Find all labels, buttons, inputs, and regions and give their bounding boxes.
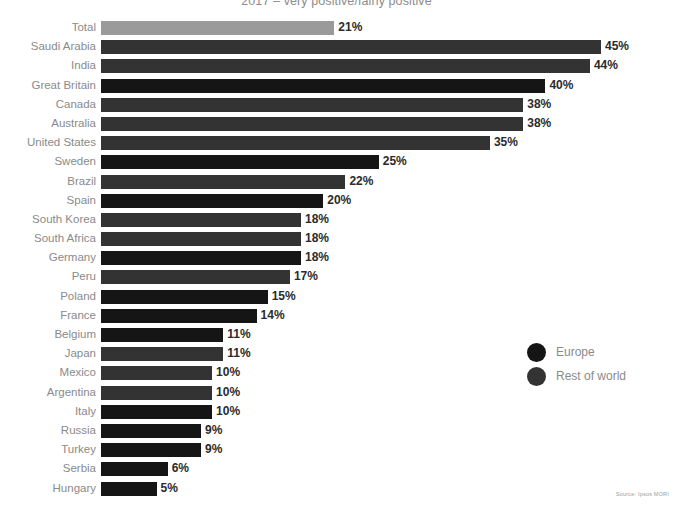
bar-value-label: 35% (494, 135, 518, 149)
bar[interactable] (101, 232, 301, 246)
bar-row: South Africa18% (0, 230, 673, 249)
bar[interactable] (101, 462, 168, 476)
bar-category-label: United States (0, 136, 96, 149)
bar-category-label: Serbia (0, 462, 96, 475)
bar-row: Turkey9% (0, 441, 673, 460)
bar[interactable] (101, 405, 212, 419)
bar-category-label: Germany (0, 251, 96, 264)
bar-row: Russia9% (0, 422, 673, 441)
bar-category-label: Turkey (0, 443, 96, 456)
bar[interactable] (101, 79, 545, 93)
bar[interactable] (101, 175, 345, 189)
bar-value-label: 38% (527, 97, 551, 111)
bar-category-label: Sweden (0, 155, 96, 168)
chart-legend: Europe Rest of world (527, 340, 626, 388)
legend-label-rest-of-world: Rest of world (556, 369, 626, 383)
chart-title: 2017 – very positive/fairly positive (0, 0, 673, 8)
bar-track (101, 40, 601, 54)
bar[interactable] (101, 251, 301, 265)
bar-category-label: Spain (0, 194, 96, 207)
bar-value-label: 5% (161, 481, 178, 495)
bar-track (101, 309, 257, 323)
bar-track (101, 482, 157, 496)
bar-track (101, 21, 334, 35)
bar-value-label: 38% (527, 116, 551, 130)
bar[interactable] (101, 117, 523, 131)
bar[interactable] (101, 98, 523, 112)
bar-row: Germany18% (0, 249, 673, 268)
bar[interactable] (101, 21, 334, 35)
bar-track (101, 251, 301, 265)
bar-value-label: 25% (383, 154, 407, 168)
bar-category-label: Peru (0, 270, 96, 283)
bar-value-label: 9% (205, 423, 222, 437)
bar-value-label: 40% (549, 78, 573, 92)
bar-row: South Korea18% (0, 211, 673, 230)
bar-category-label: Brazil (0, 175, 96, 188)
bar-category-label: Japan (0, 347, 96, 360)
bar-value-label: 18% (305, 250, 329, 264)
bar-category-label: India (0, 59, 96, 72)
bar-track (101, 328, 223, 342)
bar[interactable] (101, 213, 301, 227)
bar-track (101, 175, 345, 189)
bar[interactable] (101, 194, 323, 208)
bar-track (101, 290, 268, 304)
legend-item-europe[interactable]: Europe (527, 340, 626, 364)
bar-track (101, 232, 301, 246)
bar-track (101, 386, 212, 400)
bar[interactable] (101, 482, 157, 496)
bar[interactable] (101, 155, 379, 169)
bar-track (101, 347, 223, 361)
bar-value-label: 45% (605, 39, 629, 53)
bar[interactable] (101, 40, 601, 54)
bar-category-label: South Africa (0, 232, 96, 245)
legend-swatch-circle-icon (527, 343, 546, 362)
bar-category-label: Argentina (0, 386, 96, 399)
bar-track (101, 424, 201, 438)
bar-value-label: 18% (305, 212, 329, 226)
bar-row: Sweden25% (0, 153, 673, 172)
bar-value-label: 11% (227, 327, 250, 341)
bar-value-label: 14% (261, 308, 285, 322)
bar-row: Spain20% (0, 192, 673, 211)
bar-value-label: 22% (349, 174, 373, 188)
bar-track (101, 155, 379, 169)
bar-value-label: 10% (216, 404, 240, 418)
bar[interactable] (101, 366, 212, 380)
bar[interactable] (101, 59, 590, 73)
bar-row: Australia38% (0, 115, 673, 134)
bar-value-label: 11% (227, 346, 250, 360)
bar-chart: 2017 – very positive/fairly positive Tot… (0, 0, 673, 517)
bar-row: Saudi Arabia45% (0, 38, 673, 57)
source-note: Source: Ipsos MORI (616, 491, 669, 497)
bar-row: Serbia6% (0, 460, 673, 479)
bar[interactable] (101, 443, 201, 457)
bar[interactable] (101, 328, 223, 342)
bar[interactable] (101, 309, 257, 323)
bar[interactable] (101, 136, 490, 150)
bar-row: Poland15% (0, 288, 673, 307)
bar-row: India44% (0, 57, 673, 76)
bar-row: France14% (0, 307, 673, 326)
legend-item-rest-of-world[interactable]: Rest of world (527, 364, 626, 388)
legend-swatch-circle-icon (527, 367, 546, 386)
bar[interactable] (101, 290, 268, 304)
bar-track (101, 213, 301, 227)
bar-track (101, 98, 523, 112)
bar-row: Italy10% (0, 403, 673, 422)
bar[interactable] (101, 424, 201, 438)
bar-category-label: France (0, 309, 96, 322)
bar-value-label: 18% (305, 231, 329, 245)
bar-value-label: 9% (205, 442, 222, 456)
bar-category-label: Canada (0, 98, 96, 111)
bar[interactable] (101, 347, 223, 361)
bar-value-label: 20% (327, 193, 351, 207)
bar-category-label: Mexico (0, 366, 96, 379)
bar-category-label: Saudi Arabia (0, 40, 96, 53)
bar-row: Great Britain40% (0, 77, 673, 96)
bar[interactable] (101, 386, 212, 400)
bar[interactable] (101, 270, 290, 284)
bar-track (101, 194, 323, 208)
bar-track (101, 59, 590, 73)
